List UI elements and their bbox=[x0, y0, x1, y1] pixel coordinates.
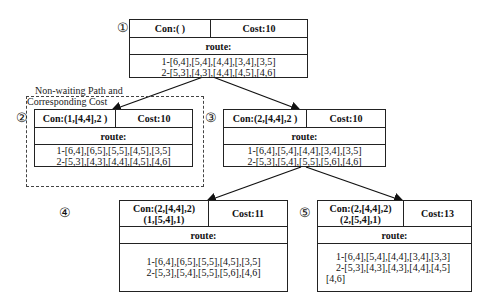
route-list: 1-[6,4],[5,4],[4,4],[3,4],[3,5] 2-[5,3],… bbox=[224, 145, 385, 167]
tree-node-1: Con:( ) Cost:10 route: 1-[6,4],[5,4],[4,… bbox=[129, 19, 308, 78]
route-agent-1: 1-[6,4],[6,5],[5,5],[4,5],[3,5] bbox=[35, 145, 192, 156]
constraint-text-1: Con:(2,[4,4],2) bbox=[330, 203, 392, 214]
route-agent-2: 2-[5,3],[4,3],[4,4],[4,5],[4,6] bbox=[130, 67, 307, 78]
route-label: route: bbox=[224, 128, 385, 145]
route-agent-1: 1-[6,4],[6,5],[5,5],[4,5],[3,5] bbox=[120, 256, 287, 267]
tree-node-4: Con:(2,[4,4],2) (1,[5,4],1) Cost:11 rout… bbox=[119, 200, 288, 292]
route-label: route: bbox=[318, 227, 471, 244]
node-marker-3: ③ bbox=[205, 110, 217, 126]
tree-node-3: Con:(2,[4,4],2 ) Cost:10 route: 1-[6,4],… bbox=[223, 109, 386, 167]
route-label: route: bbox=[120, 227, 287, 244]
constraint-text: Con:(1,[4,4],2 ) bbox=[43, 113, 107, 124]
cost-cell: Cost:11 bbox=[209, 201, 287, 226]
cost-cell: Cost:10 bbox=[116, 110, 192, 127]
route-agent-2: 2-[5,3],[5,4],[5,5],[5,6],[4,6] bbox=[120, 267, 287, 278]
cost-cell: Cost:10 bbox=[307, 110, 385, 127]
constraint-cell: Con:( ) bbox=[130, 20, 211, 37]
annotation-line-1: Non-waiting Path and bbox=[27, 85, 123, 96]
constraint-cell: Con:(2,[4,4],2 ) bbox=[224, 110, 307, 127]
route-agent-2: 2-[5,3],[4,3],[4,3],[4,4],[4,5] bbox=[326, 262, 471, 273]
tree-node-2: Con:(1,[4,4],2 ) Cost:10 route: 1-[6,4],… bbox=[34, 109, 193, 167]
route-agent-1: 1-[6,4],[5,4],[4,4],[3,4],[3,3] bbox=[326, 251, 471, 262]
route-label: route: bbox=[130, 38, 307, 55]
tree-node-5: Con:(2,[4,4],2) (2,[5,4],1) Cost:13 rout… bbox=[317, 200, 472, 292]
route-agent-2-continued: [4,6] bbox=[326, 273, 471, 284]
node-marker-4: ④ bbox=[59, 205, 71, 221]
cost-cell: Cost:13 bbox=[404, 201, 471, 226]
route-list: 1-[6,4],[5,4],[4,4],[3,4],[3,5] 2-[5,3],… bbox=[130, 55, 307, 78]
node-marker-2: ② bbox=[16, 110, 28, 126]
route-label: route: bbox=[35, 128, 192, 145]
node-marker-1: ① bbox=[117, 20, 129, 36]
constraint-text-1: Con:(2,[4,4],2) bbox=[133, 203, 195, 214]
constraint-text: Con:( ) bbox=[155, 23, 185, 34]
constraint-text-2: (1,[5,4],1) bbox=[144, 214, 185, 225]
route-agent-1: 1-[6,4],[5,4],[4,4],[3,4],[3,5] bbox=[130, 56, 307, 67]
route-list: 1-[6,4],[6,5],[5,5],[4,5],[3,5] 2-[5,3],… bbox=[35, 145, 192, 167]
constraint-text-2: (2,[5,4],1) bbox=[340, 214, 381, 225]
constraint-cell: Con:(1,[4,4],2 ) bbox=[35, 110, 116, 127]
constraint-text: Con:(2,[4,4],2 ) bbox=[233, 113, 297, 124]
cost-cell: Cost:10 bbox=[211, 20, 307, 37]
node-marker-5: ⑤ bbox=[299, 205, 311, 221]
constraint-cell: Con:(2,[4,4],2) (1,[5,4],1) bbox=[120, 201, 209, 226]
constraint-cell: Con:(2,[4,4],2) (2,[5,4],1) bbox=[318, 201, 404, 226]
route-agent-2: 2-[5,3],[4,3],[4,4],[4,5],[4,6] bbox=[35, 156, 192, 167]
route-list: 1-[6,4],[5,4],[4,4],[3,4],[3,3] 2-[5,3],… bbox=[318, 244, 471, 290]
route-agent-1: 1-[6,4],[5,4],[4,4],[3,4],[3,5] bbox=[224, 145, 385, 156]
route-agent-2: 2-[5,3],[5,4],[5,5],[5,6],[4,6] bbox=[224, 156, 385, 167]
route-list: 1-[6,4],[6,5],[5,5],[4,5],[3,5] 2-[5,3],… bbox=[120, 244, 287, 290]
